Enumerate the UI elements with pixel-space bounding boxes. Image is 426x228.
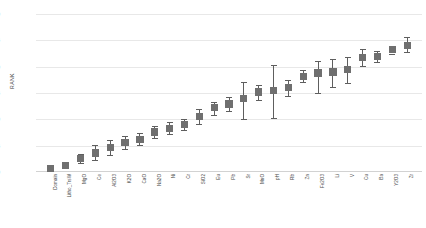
error-bar-cap-upper xyxy=(285,80,291,81)
error-bar-cap-upper xyxy=(181,119,187,120)
error-bar-cap-lower xyxy=(92,160,98,161)
x-tick-label: Sr xyxy=(246,174,251,179)
x-tick-label: V xyxy=(350,174,355,177)
x-tick-label: Na2O xyxy=(157,174,162,186)
data-marker[interactable] xyxy=(300,73,307,80)
gridline xyxy=(36,14,422,15)
data-marker[interactable] xyxy=(240,95,247,102)
data-marker[interactable] xyxy=(344,66,351,73)
error-bar-cap-upper xyxy=(300,70,306,71)
x-tick-label: MgO xyxy=(82,174,87,184)
data-marker[interactable] xyxy=(255,88,262,95)
data-marker[interactable] xyxy=(211,104,218,111)
data-marker[interactable] xyxy=(404,42,411,49)
error-bar-cap-upper xyxy=(211,102,217,103)
data-marker[interactable] xyxy=(285,84,292,91)
gridline xyxy=(36,67,422,68)
error-bar-line xyxy=(318,61,319,93)
error-bar-cap-upper xyxy=(315,61,321,62)
error-bar-cap-lower xyxy=(122,149,128,150)
error-bar-cap-lower xyxy=(256,100,262,101)
error-bar-cap-lower xyxy=(241,119,247,120)
error-bar-cap-lower xyxy=(152,138,158,139)
error-bar-cap-lower xyxy=(389,54,395,55)
error-bar-cap-lower xyxy=(167,134,173,135)
error-bar-cap-upper xyxy=(241,82,247,83)
x-tick-label: K2O xyxy=(127,174,132,183)
x-tick-label: Fe2O3 xyxy=(320,174,325,188)
error-bar-cap-upper xyxy=(271,65,277,66)
error-bar-cap-upper xyxy=(256,85,262,86)
x-tick-label: pH xyxy=(275,174,280,180)
gridline xyxy=(36,119,422,120)
x-tick-label: Eu xyxy=(216,174,221,180)
error-bar-cap-upper xyxy=(122,136,128,137)
x-tick-label: Y2O3 xyxy=(394,174,399,186)
x-tick-label: CaO xyxy=(142,174,147,183)
data-marker[interactable] xyxy=(270,87,277,94)
data-marker[interactable] xyxy=(121,139,128,146)
x-tick-label: Cu xyxy=(364,174,369,180)
x-tick-label: Pb xyxy=(231,174,236,180)
plot-area: 051015202530DomainLitho_TrsWMgOCeAl2O3K2… xyxy=(36,14,422,172)
error-bar-cap-upper xyxy=(330,59,336,60)
error-bar-cap-lower xyxy=(285,96,291,97)
x-tick-label: Domain xyxy=(53,174,58,190)
error-bar-cap-upper xyxy=(374,51,380,52)
error-bar-cap-lower xyxy=(196,124,202,125)
data-marker[interactable] xyxy=(196,113,203,120)
error-bar-cap-upper xyxy=(92,145,98,146)
x-tick-label: Litho_TrsW xyxy=(67,174,72,197)
x-tick-label: Zn xyxy=(305,174,310,179)
error-bar-cap-lower xyxy=(271,118,277,119)
x-tick-label: Ce xyxy=(97,174,102,180)
data-marker[interactable] xyxy=(77,155,84,162)
error-bar-cap-upper xyxy=(167,122,173,123)
error-bar-cap-lower xyxy=(404,52,410,53)
error-bar-cap-lower xyxy=(360,66,366,67)
error-bar-cap-lower xyxy=(345,83,351,84)
data-marker[interactable] xyxy=(374,53,381,60)
error-bar-cap-lower xyxy=(300,82,306,83)
x-tick-label: SiO2 xyxy=(201,174,206,184)
error-bar-cap-upper xyxy=(404,37,410,38)
error-bar-cap-lower xyxy=(330,87,336,88)
data-marker[interactable] xyxy=(151,128,158,135)
error-bar-cap-upper xyxy=(137,133,143,134)
data-marker[interactable] xyxy=(329,68,336,75)
x-tick-label: MnO xyxy=(260,174,265,184)
error-bar-cap-lower xyxy=(137,145,143,146)
error-bar-cap-lower xyxy=(315,93,321,94)
x-tick-label: Ni xyxy=(171,174,176,178)
error-bar-cap-lower xyxy=(78,163,84,164)
error-bar-cap-upper xyxy=(226,97,232,98)
error-bar-cap-lower xyxy=(181,130,187,131)
data-marker[interactable] xyxy=(181,121,188,128)
x-tick-label: Cr xyxy=(186,174,191,179)
data-marker[interactable] xyxy=(62,162,69,169)
data-marker[interactable] xyxy=(359,54,366,61)
x-tick-label: Ba xyxy=(379,174,384,180)
data-marker[interactable] xyxy=(314,69,321,76)
rank-errorbar-chart: RANK 051015202530DomainLitho_TrsWMgOCeAl… xyxy=(0,0,426,228)
error-bar-cap-lower xyxy=(226,111,232,112)
error-bar-cap-upper xyxy=(360,49,366,50)
error-bar-cap-lower xyxy=(211,115,217,116)
data-marker[interactable] xyxy=(166,125,173,132)
error-bar-cap-lower xyxy=(107,155,113,156)
error-bar-cap-upper xyxy=(345,57,351,58)
data-marker[interactable] xyxy=(107,144,114,151)
data-marker[interactable] xyxy=(225,100,232,107)
data-marker[interactable] xyxy=(389,46,396,53)
gridline xyxy=(36,40,422,41)
y-axis-title: RANK xyxy=(9,51,15,111)
x-tick-label: Rb xyxy=(290,174,295,180)
error-bar-cap-upper xyxy=(107,140,113,141)
gridline xyxy=(36,93,422,94)
data-marker[interactable] xyxy=(136,136,143,143)
x-tick-label: Zr xyxy=(409,174,414,178)
data-marker[interactable] xyxy=(92,149,99,156)
x-tick-label: Li xyxy=(335,174,340,178)
data-marker[interactable] xyxy=(47,165,54,172)
x-axis-baseline xyxy=(36,171,422,172)
